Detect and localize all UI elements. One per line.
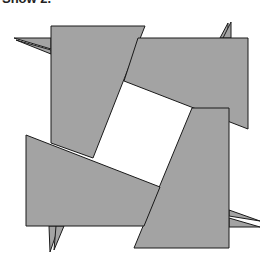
- spike-bottom-spike-b: [54, 226, 64, 250]
- piece-top-left: [51, 26, 145, 158]
- pinwheel-diagram: [0, 0, 273, 267]
- pieces-group: [26, 26, 248, 248]
- spike-left-spike-a: [14, 38, 51, 49]
- piece-bottom-right: [134, 108, 229, 248]
